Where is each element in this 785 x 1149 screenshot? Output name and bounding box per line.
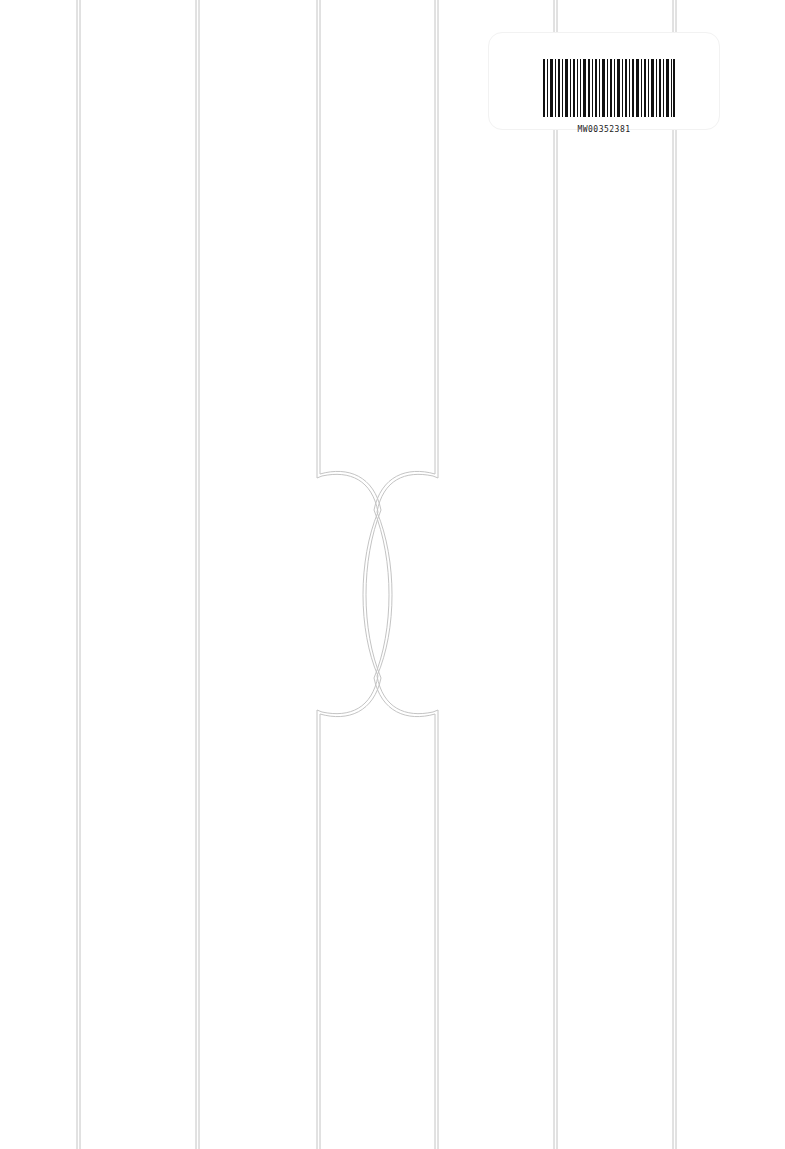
decorative-line-art bbox=[0, 0, 785, 1149]
barcode-label: MW00352381 bbox=[488, 32, 720, 130]
barcode-number: MW00352381 bbox=[489, 125, 719, 134]
barcode bbox=[543, 59, 675, 117]
